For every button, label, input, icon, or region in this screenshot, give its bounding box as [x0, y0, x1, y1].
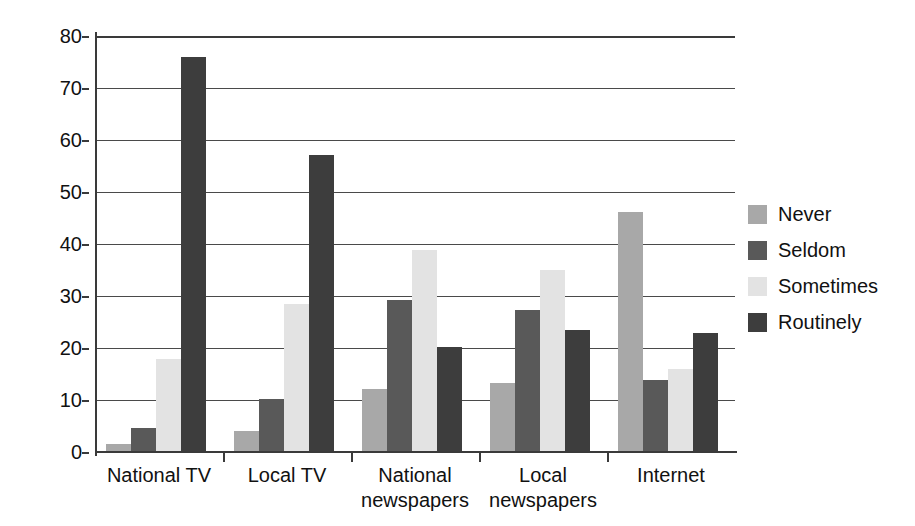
y-tick-label-40: 40 — [42, 234, 82, 254]
y-tick-mark-60 — [82, 140, 89, 142]
legend: NeverSeldomSometimesRoutinely — [748, 196, 878, 340]
y-tick-label-30: 30 — [42, 286, 82, 306]
bar-sometimes-national-newspapers — [412, 250, 437, 452]
y-tick-label-60: 60 — [42, 130, 82, 150]
bar-sometimes-local-tv — [284, 304, 309, 452]
legend-item-routinely[interactable]: Routinely — [748, 304, 878, 340]
bar-routinely-internet — [693, 333, 718, 452]
category-label-local-tv: Local TV — [223, 463, 351, 488]
y-tick-label-20: 20 — [42, 338, 82, 358]
legend-item-sometimes[interactable]: Sometimes — [748, 268, 878, 304]
bar-seldom-local-tv — [259, 399, 284, 452]
bar-never-local-tv — [234, 431, 259, 452]
y-tick-mark-80 — [82, 36, 89, 38]
legend-label-routinely: Routinely — [778, 312, 861, 332]
legend-item-seldom[interactable]: Seldom — [748, 232, 878, 268]
y-tick-mark-70 — [82, 88, 89, 90]
y-tick-label-70: 70 — [42, 78, 82, 98]
bar-seldom-internet — [643, 380, 668, 452]
bar-routinely-local-newspapers — [565, 330, 590, 452]
y-tick-mark-10 — [82, 400, 89, 402]
legend-swatch-seldom — [748, 241, 767, 260]
y-tick-label-0: 0 — [42, 442, 82, 462]
bar-seldom-national-newspapers — [387, 300, 412, 452]
x-tick-2 — [351, 453, 353, 462]
y-tick-mark-50 — [82, 192, 89, 194]
x-tick-4 — [607, 453, 609, 462]
bar-never-internet — [618, 212, 643, 452]
bar-sometimes-local-newspapers — [540, 270, 565, 452]
bar-never-national-newspapers — [362, 389, 387, 452]
legend-label-never: Never — [778, 204, 831, 224]
bar-never-local-newspapers — [490, 383, 515, 452]
bar-seldom-national-tv — [131, 428, 156, 452]
x-tick-3 — [479, 453, 481, 462]
y-tick-mark-0 — [82, 452, 89, 454]
legend-swatch-never — [748, 205, 767, 224]
y-tick-label-50: 50 — [42, 182, 82, 202]
bar-chart: 80706050403020100 National TVLocal TVNat… — [0, 0, 915, 526]
x-axis-line — [95, 451, 737, 453]
bar-routinely-national-tv — [181, 57, 206, 452]
y-tick-mark-20 — [82, 348, 89, 350]
y-tick-label-80: 80 — [42, 26, 82, 46]
legend-swatch-routinely — [748, 313, 767, 332]
legend-swatch-sometimes — [748, 277, 767, 296]
plot-area — [95, 36, 735, 452]
category-label-line1: Local — [519, 464, 567, 486]
y-tick-label-10: 10 — [42, 390, 82, 410]
x-tick-1 — [223, 453, 225, 462]
bar-routinely-local-tv — [309, 155, 334, 452]
legend-label-seldom: Seldom — [778, 240, 846, 260]
category-label-line2: newspapers — [351, 488, 479, 513]
bar-seldom-local-newspapers — [515, 310, 540, 452]
category-label-national-newspapers: Nationalnewspapers — [351, 463, 479, 513]
bar-sometimes-national-tv — [156, 359, 181, 452]
category-label-line1: Local TV — [248, 464, 327, 486]
category-label-line2: newspapers — [479, 488, 607, 513]
legend-label-sometimes: Sometimes — [778, 276, 878, 296]
legend-item-never[interactable]: Never — [748, 196, 878, 232]
category-label-line1: Internet — [637, 464, 705, 486]
y-axis-line — [95, 32, 97, 456]
category-label-local-newspapers: Localnewspapers — [479, 463, 607, 513]
y-tick-mark-40 — [82, 244, 89, 246]
category-label-line1: National — [378, 464, 451, 486]
bar-routinely-national-newspapers — [437, 347, 462, 452]
category-label-national-tv: National TV — [95, 463, 223, 488]
category-label-internet: Internet — [607, 463, 735, 488]
y-axis-labels: 80706050403020100 — [0, 36, 82, 452]
y-tick-mark-30 — [82, 296, 89, 298]
bar-sometimes-internet — [668, 369, 693, 452]
category-label-line1: National TV — [107, 464, 211, 486]
bars-layer — [95, 36, 735, 452]
